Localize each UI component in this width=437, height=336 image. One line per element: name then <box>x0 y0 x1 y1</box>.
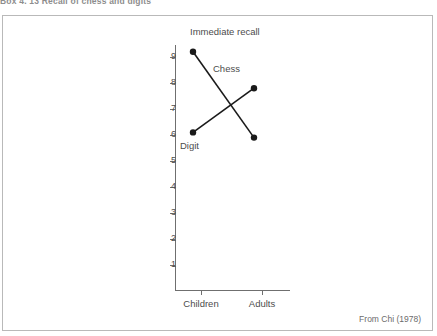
chart-data-layer <box>0 0 437 336</box>
series-label-chess: Chess <box>213 63 240 74</box>
chart-plot-area: Immediate recall 123456789 ChildrenAdult… <box>0 0 437 336</box>
data-point-marker <box>251 134 257 140</box>
data-point-marker <box>190 129 196 135</box>
source-attribution: From Chi (1978) <box>359 314 421 324</box>
series-label-digit: Digit <box>180 140 199 151</box>
data-point-marker <box>190 49 196 55</box>
data-point-marker <box>251 85 257 91</box>
